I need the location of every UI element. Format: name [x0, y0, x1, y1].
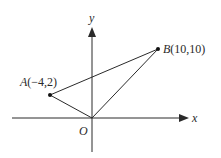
point-B	[156, 47, 160, 51]
segment-OB	[92, 49, 158, 118]
x-axis-arrowhead	[179, 114, 189, 122]
point-A	[48, 93, 52, 97]
origin-label: O	[79, 124, 88, 138]
y-axis-arrowhead	[88, 27, 96, 37]
segment-AB	[50, 49, 158, 95]
point-A-coords: (−4,2)	[27, 75, 57, 89]
point-A-label: A(−4,2)	[19, 75, 57, 89]
point-B-coords: (10,10)	[170, 42, 205, 56]
y-axis-label: y	[88, 11, 95, 25]
segment-OA	[50, 95, 92, 118]
coordinate-diagram: y x O A(−4,2) B(10,10)	[0, 0, 221, 158]
x-axis-label: x	[191, 111, 198, 125]
point-B-label: B(10,10)	[163, 42, 205, 56]
